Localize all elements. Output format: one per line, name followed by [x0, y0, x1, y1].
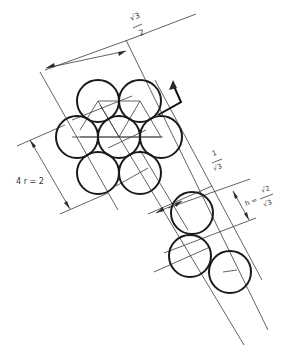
- label-right-prefix: h =: [244, 196, 259, 208]
- label-mid-den: √3: [212, 162, 223, 173]
- diagram-canvas: √3 2 4 r = 2 1 √3 h = √2 √3: [0, 0, 291, 357]
- dimension-top: [46, 51, 126, 68]
- label-mid-num: 1: [211, 149, 218, 158]
- label-top-num: √3: [129, 11, 142, 23]
- chain-center-tick: [223, 270, 237, 272]
- label-top: √3 2: [129, 11, 146, 38]
- circle-bottom-right: [119, 152, 161, 194]
- ext-line-mid: [148, 186, 212, 214]
- label-right: h = √2 √3: [244, 184, 273, 209]
- label-mid: 1 √3: [211, 149, 223, 173]
- ext-line-chain: [154, 247, 210, 272]
- guide-line-2: [126, 40, 268, 330]
- guide-line-3: [100, 105, 244, 345]
- chain-circle-3: [209, 251, 251, 293]
- dimension-left: [30, 140, 70, 209]
- circle-bottom-left: [77, 152, 119, 194]
- guide-line-5: [140, 150, 188, 230]
- label-top-den: 2: [138, 28, 146, 38]
- circle-chain: [169, 192, 251, 293]
- label-right-num: √2: [260, 184, 271, 195]
- construction-lines: [17, 14, 268, 345]
- label-left: 4 r = 2: [16, 177, 44, 186]
- ext-line-right-top: [168, 179, 250, 208]
- label-right-den: √3: [262, 198, 273, 209]
- dimension-mid: [156, 201, 182, 213]
- label-left-text: 4 r = 2: [16, 177, 44, 186]
- chain-circle-1: [171, 192, 213, 234]
